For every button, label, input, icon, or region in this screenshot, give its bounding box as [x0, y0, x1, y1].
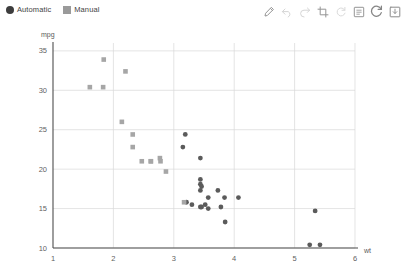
data-point[interactable]	[219, 205, 224, 210]
data-point[interactable]	[222, 195, 227, 200]
data-point[interactable]	[199, 205, 204, 210]
data-point[interactable]	[215, 188, 220, 193]
data-point[interactable]	[198, 177, 203, 182]
data-point[interactable]	[182, 200, 187, 205]
x-tick-label: 2	[111, 254, 115, 263]
legend-marker-circle-icon	[6, 6, 14, 14]
data-point[interactable]	[236, 195, 241, 200]
chart-legend: Automatic Manual	[6, 5, 99, 14]
y-tick-label: 30	[39, 86, 47, 95]
crop-icon[interactable]	[316, 5, 329, 18]
data-point[interactable]	[183, 132, 188, 137]
series-manual	[88, 57, 187, 204]
legend-marker-square-icon	[63, 6, 71, 14]
data-point[interactable]	[164, 169, 169, 174]
data-point[interactable]	[198, 156, 203, 161]
legend-item-automatic[interactable]: Automatic	[6, 5, 51, 14]
data-point[interactable]	[307, 242, 312, 247]
data-point[interactable]	[223, 220, 228, 225]
data-point[interactable]	[198, 188, 203, 193]
data-point[interactable]	[88, 85, 93, 90]
legend-label-automatic: Automatic	[17, 5, 51, 14]
data-point[interactable]	[206, 206, 211, 211]
y-axis-title: mpg	[41, 31, 55, 39]
notes-icon[interactable]	[352, 5, 365, 18]
undo-icon[interactable]	[280, 5, 293, 18]
rotate-icon[interactable]	[334, 5, 347, 18]
x-tick-label: 5	[293, 254, 297, 263]
data-point[interactable]	[158, 159, 163, 164]
legend-item-manual[interactable]: Manual	[63, 5, 99, 14]
y-tick-label: 10	[39, 244, 47, 253]
scatter-plot: 101520253035123456mpgwt	[0, 26, 406, 274]
x-tick-label: 4	[232, 254, 236, 263]
data-point[interactable]	[101, 57, 106, 62]
chart-topbar: Automatic Manual	[0, 0, 406, 26]
data-point[interactable]	[139, 159, 144, 164]
x-tick-label: 6	[353, 254, 357, 263]
data-point[interactable]	[120, 120, 125, 125]
data-point[interactable]	[130, 145, 135, 150]
x-tick-label: 1	[51, 254, 55, 263]
y-tick-label: 20	[39, 165, 47, 174]
y-tick-label: 25	[39, 125, 47, 134]
data-point[interactable]	[101, 85, 106, 90]
data-point[interactable]	[180, 145, 185, 150]
data-point[interactable]	[149, 159, 154, 164]
draw-pencil-icon[interactable]	[262, 5, 275, 18]
y-tick-label: 35	[39, 46, 47, 55]
data-point[interactable]	[318, 242, 323, 247]
legend-label-manual: Manual	[74, 5, 99, 14]
data-point[interactable]	[313, 209, 318, 214]
data-point[interactable]	[123, 69, 128, 74]
chart-toolbar	[262, 5, 401, 18]
series-automatic	[180, 132, 322, 247]
redo-icon[interactable]	[298, 5, 311, 18]
y-tick-label: 15	[39, 204, 47, 213]
data-point[interactable]	[206, 195, 211, 200]
x-tick-label: 3	[172, 254, 176, 263]
data-point[interactable]	[130, 132, 135, 137]
data-point[interactable]	[190, 202, 195, 207]
refresh-icon[interactable]	[370, 5, 383, 18]
x-axis-title: wt	[363, 247, 371, 254]
save-icon[interactable]	[388, 5, 401, 18]
chart-canvas: 101520253035123456mpgwt	[0, 26, 406, 274]
